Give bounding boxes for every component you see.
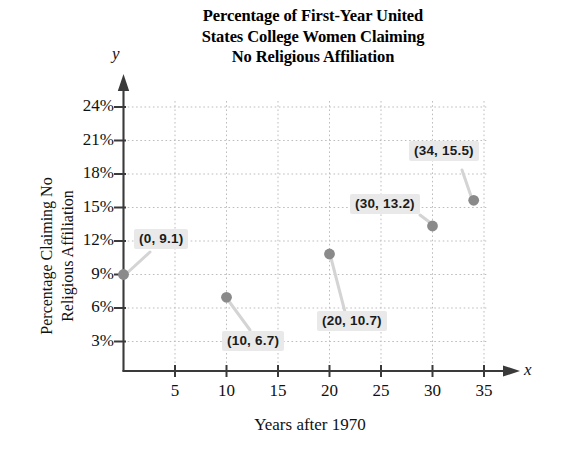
x-axis-title: Years after 1970 <box>160 415 460 435</box>
x-tick-label-20: 20 <box>308 381 352 401</box>
x-tick-label-5: 5 <box>153 381 197 401</box>
y-axis-title-line-1: Percentage Claiming No <box>36 126 57 386</box>
chart-figure: Percentage of First-Year United States C… <box>0 0 561 456</box>
page-bleed-text <box>0 446 561 456</box>
x-tick-label-35: 35 <box>462 381 506 401</box>
y-axis-title-line-2: Religious Affiliation <box>57 126 78 386</box>
point-annotation-1: (10, 6.7) <box>222 331 284 351</box>
x-axis-tick-labels: 5 10 15 20 25 30 35 <box>0 0 561 456</box>
point-annotation-0: (0, 9.1) <box>134 229 188 249</box>
y-axis-title: Percentage Claiming No Religious Affilia… <box>36 126 78 386</box>
point-annotation-2: (20, 10.7) <box>317 311 387 331</box>
x-tick-label-30: 30 <box>411 381 455 401</box>
x-tick-label-10: 10 <box>205 381 249 401</box>
x-tick-label-25: 25 <box>359 381 403 401</box>
x-tick-label-15: 15 <box>256 381 300 401</box>
point-annotation-4: (34, 15.5) <box>409 141 479 161</box>
point-annotation-3: (30, 13.2) <box>350 194 420 214</box>
